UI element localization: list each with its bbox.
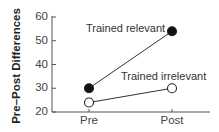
open-circle-marker xyxy=(168,84,177,93)
series-label-trained-irrelevant: Trained irrelevant xyxy=(121,70,206,82)
y-axis-label: Pre–Post Differences xyxy=(10,8,22,124)
open-circle-marker xyxy=(85,98,94,107)
y-tick-label: 50 xyxy=(35,34,48,46)
plot-area xyxy=(0,0,219,132)
x-tick-label: Post xyxy=(160,114,183,126)
y-tick-label: 30 xyxy=(35,81,48,93)
filled-circle-marker xyxy=(85,84,94,93)
filled-circle-marker xyxy=(168,27,177,36)
y-tick-label: 20 xyxy=(35,105,48,117)
series-line xyxy=(89,88,172,102)
series-label-trained-relevant: Trained relevant xyxy=(86,22,165,34)
y-tick-label: 60 xyxy=(35,10,48,22)
x-tick-label: Pre xyxy=(80,114,98,126)
line-chart: Pre–Post Differences 2030405060 PrePost … xyxy=(0,0,219,132)
y-tick-label: 40 xyxy=(35,58,48,70)
